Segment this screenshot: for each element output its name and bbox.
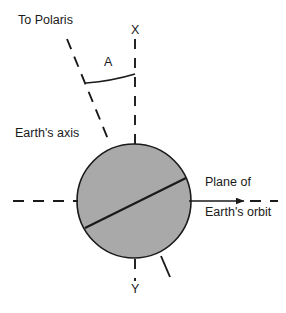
earth-axial-tilt-diagram: To Polaris Earth's axis X Y A Plane of E… (0, 0, 286, 313)
earths-axis-lower-stub (161, 256, 170, 277)
label-earths-orbit: Earth's orbit (205, 206, 271, 219)
label-plane-of: Plane of (205, 176, 251, 189)
label-x-point: X (131, 24, 139, 37)
label-angle-a: A (104, 56, 112, 69)
label-to-polaris: To Polaris (18, 14, 73, 27)
earth-circle (77, 144, 191, 258)
angle-arc (86, 74, 135, 83)
diagram-canvas (0, 0, 286, 313)
label-y-point: Y (131, 283, 139, 296)
label-earths-axis: Earth's axis (15, 127, 79, 140)
